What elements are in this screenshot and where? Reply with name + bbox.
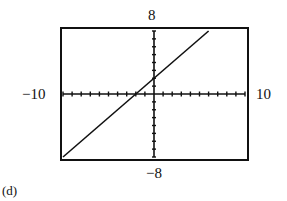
xmin-label: −10 — [22, 87, 45, 102]
axes — [63, 31, 245, 157]
xmax-label: 10 — [256, 87, 271, 102]
ymax-label: 8 — [148, 8, 156, 23]
panel-label: (d) — [2, 183, 17, 198]
ymin-label: −8 — [146, 166, 162, 181]
